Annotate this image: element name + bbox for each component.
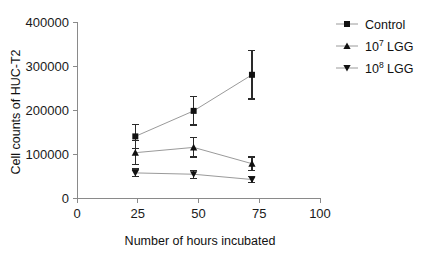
y-axis-tick-label: 0 [62,191,69,206]
data-point-marker [191,108,197,114]
y-axis-tick-label: 100000 [26,147,69,162]
x-axis-tick-label: 75 [252,206,266,221]
legend-label: Control [365,18,405,32]
x-axis-tick-label: 25 [131,206,145,221]
error-bar-line-chart: 0100000200000300000400000 0255075100 Con… [0,0,422,253]
y-axis-tick-label: 400000 [26,15,69,30]
x-axis-title: Number of hours incubated [125,234,276,248]
chart-legend: Control107 LGG108 LGG [336,18,414,76]
x-axis-tick-label: 50 [191,206,205,221]
data-point-marker [249,72,255,78]
chart-background [0,0,422,253]
x-axis-tick-label: 100 [309,206,331,221]
x-axis-tick-label: 0 [73,206,80,221]
y-axis-title: Cell counts of HUC-T2 [9,49,23,174]
data-point-marker [132,133,138,139]
y-axis-tick-label: 200000 [26,103,69,118]
legend-label: 108 LGG [365,60,414,76]
y-axis-tick-label: 300000 [26,59,69,74]
legend-marker [344,21,350,27]
legend-label: 107 LGG [365,38,414,54]
chart-figure: 0100000200000300000400000 0255075100 Con… [0,0,422,253]
